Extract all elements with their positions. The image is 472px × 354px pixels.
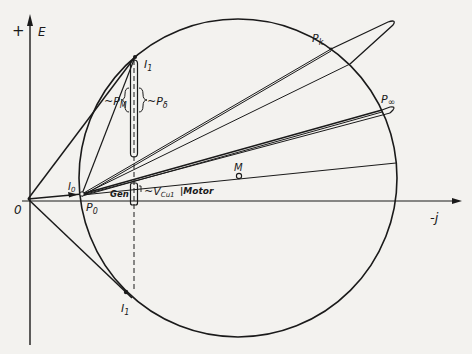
line-o-to-i1-upper bbox=[28, 57, 135, 199]
pinf-label: P∞ bbox=[381, 93, 395, 107]
origin-label: 0 bbox=[14, 203, 22, 217]
pm-label: ~PM bbox=[104, 95, 127, 110]
plus-sign: + bbox=[12, 22, 25, 40]
i1-upper-point bbox=[133, 55, 137, 59]
m-label: M bbox=[234, 162, 243, 173]
gen-label: Gen bbox=[110, 189, 129, 199]
motor-label: |Motor bbox=[180, 186, 214, 196]
pk-point bbox=[329, 47, 332, 50]
power-measurement-bars bbox=[121, 60, 147, 292]
pk-label: Pk bbox=[312, 32, 324, 47]
p0-label: P0 bbox=[86, 201, 98, 216]
i1-upper-label: I1 bbox=[144, 58, 152, 73]
vcu-label: ~VCu1 bbox=[144, 185, 175, 199]
pdelta-label: ~Pδ bbox=[147, 95, 168, 110]
i0-label: I0 bbox=[68, 181, 76, 194]
pinf-loop bbox=[382, 107, 394, 113]
j-axis-label: -j bbox=[430, 210, 439, 225]
line-o-to-i1-lower bbox=[28, 199, 132, 298]
j-axis-arrow-icon bbox=[452, 198, 462, 204]
i1-lower-point bbox=[124, 290, 128, 294]
pk-loop bbox=[331, 21, 394, 64]
e-axis bbox=[27, 14, 33, 345]
e-axis-arrow-icon bbox=[27, 14, 33, 26]
m-point bbox=[236, 173, 241, 178]
circle-diagram: + E -j 0 bbox=[0, 0, 472, 354]
i1-lower-label: I1 bbox=[121, 302, 129, 317]
e-axis-label: E bbox=[38, 25, 46, 39]
p0-point bbox=[80, 192, 84, 196]
